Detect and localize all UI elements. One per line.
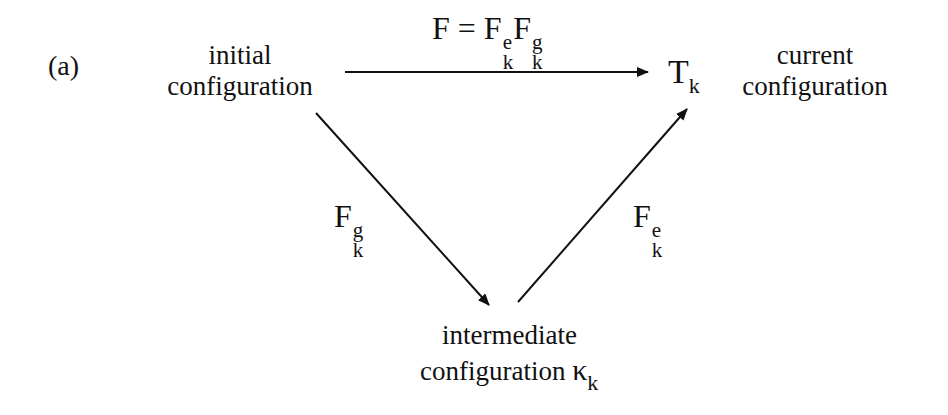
edge-top-f2-sub: k [532,53,543,73]
node-initial-line1: initial [150,42,330,69]
panel-label: (a) [48,52,79,80]
edge-right-sub: k [652,241,663,261]
intermediate-symbol-kappa: κ [572,353,587,386]
edge-top-f2: F [513,10,531,46]
edge-top-equals: = [458,10,476,46]
node-current: current configuration [720,42,910,100]
edge-top-f1: F [484,10,502,46]
edge-label-right: Fek [633,200,662,261]
node-intermediate-line1: intermediate [420,322,660,349]
edge-label-top: F = FekFgk [432,12,542,73]
node-intermediate-line2: configuration [420,356,565,386]
current-symbol-sub: k [689,73,700,98]
node-intermediate: intermediate configuration κk [420,322,660,394]
edge-label-left: Fgk [334,200,363,261]
current-symbol-T: T [668,53,689,90]
edge-right-F: F [633,198,651,234]
edge-left-sub: k [353,241,364,261]
edge-left-F: F [334,198,352,234]
node-current-symbol: Tk [668,55,700,97]
node-initial: initial configuration [150,42,330,100]
node-initial-line2: configuration [150,73,330,100]
node-current-line2: configuration [720,73,910,100]
node-current-line1: current [720,42,910,69]
intermediate-symbol-sub: k [587,370,598,395]
edge-top-f1-sub: k [503,53,514,73]
edge-top-lhs: F [432,10,450,46]
